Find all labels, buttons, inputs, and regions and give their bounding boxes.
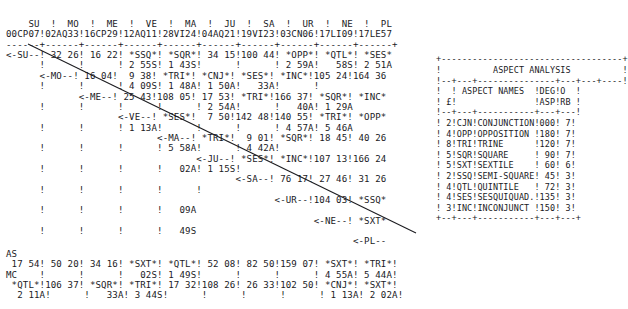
aspect-analysis-panel: +-----------------------------------+ ! … bbox=[436, 54, 628, 224]
angles-aspect-rows: AS 17 54! 50 20! 34 16! *SXT*! *QTL*! 52… bbox=[6, 249, 403, 301]
aspect-grid: SU ! MO ! ME ! VE ! MA ! JU ! SA ! UR ! … bbox=[6, 19, 398, 247]
